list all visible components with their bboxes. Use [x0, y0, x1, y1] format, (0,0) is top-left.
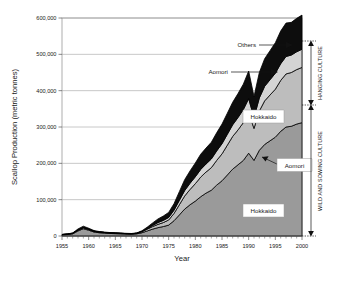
bracket-hanging-culture-label: HANGING CULTURE [317, 46, 323, 100]
bracket-wild-sowing-culture-label: WILD AND SOWING CULTURE [317, 131, 323, 211]
x-axis-tick-labels: 1955196019651970197519801985199019952000 [56, 243, 308, 249]
x-axis-ticks [62, 236, 302, 240]
y-axis-tick-labels: 0100,000200,000300,000400,000500,000600,… [36, 15, 56, 239]
y-tick-label: 100,000 [36, 197, 56, 203]
annotation-hokkaido-bottom: Hokkaido [243, 204, 284, 217]
x-axis-title: Year [174, 254, 190, 263]
annotation-hokkaido-top-label: Hokkaido [251, 113, 277, 120]
y-axis-title: Scallop Production (metric tonnes) [10, 68, 19, 185]
annotation-others-label: Others [237, 41, 256, 48]
y-tick-label: 600,000 [36, 15, 56, 21]
chart-canvas: 0100,000200,000300,000400,000500,000600,… [0, 0, 350, 281]
y-tick-label: 200,000 [36, 160, 56, 166]
culture-brackets: HANGING CULTURE WILD AND SOWING CULTURE [302, 41, 323, 237]
annotation-aomori-bottom-label: Aomori [285, 162, 305, 169]
bracket-hanging-culture: HANGING CULTURE [302, 41, 323, 106]
annotation-hokkaido-top: Hokkaido [243, 110, 284, 123]
y-tick-label: 400,000 [36, 88, 56, 94]
annotation-hokkaido-bottom-label: Hokkaido [251, 207, 277, 214]
x-tick-label: 1985 [216, 243, 228, 249]
y-tick-label: 0 [53, 233, 56, 239]
x-tick-label: 1980 [189, 243, 201, 249]
y-tick-label: 500,000 [36, 51, 56, 57]
x-tick-label: 1965 [109, 243, 121, 249]
scallop-production-chart: 0100,000200,000300,000400,000500,000600,… [0, 0, 350, 281]
x-tick-label: 1970 [136, 243, 148, 249]
x-tick-label: 2000 [296, 243, 308, 249]
x-tick-label: 1995 [269, 243, 281, 249]
stacked-area-series [62, 15, 302, 236]
x-tick-label: 1975 [162, 243, 174, 249]
x-tick-label: 1990 [242, 243, 254, 249]
y-axis-ticks [59, 18, 63, 236]
y-tick-label: 300,000 [36, 124, 56, 130]
annotation-aomori-top-label: Aomori [208, 68, 228, 75]
x-tick-label: 1955 [56, 243, 68, 249]
x-tick-label: 1960 [82, 243, 94, 249]
